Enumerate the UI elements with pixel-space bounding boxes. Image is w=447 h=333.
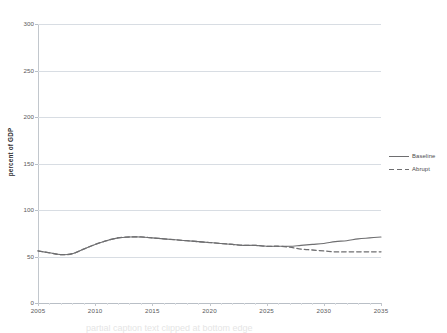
x-minor-tick-2011 — [107, 303, 108, 305]
x-tick-mark-2020 — [210, 303, 211, 306]
x-minor-tick-2018 — [187, 303, 188, 305]
y-axis-tick-group: 050100150200250300 — [0, 0, 34, 333]
x-minor-tick-2008 — [72, 303, 73, 305]
chart-figure: percent of GDP 050100150200250300 200520… — [0, 0, 447, 333]
y-tick-label-250: 250 — [23, 67, 34, 73]
y-tick-mark-0 — [35, 303, 38, 304]
x-minor-tick-2016 — [164, 303, 165, 305]
y-tick-label-200: 200 — [23, 114, 34, 120]
x-tick-mark-2030 — [324, 303, 325, 306]
y-tick-label-100: 100 — [23, 207, 34, 213]
y-tick-label-300: 300 — [23, 21, 34, 27]
y-tick-label-50: 50 — [27, 253, 34, 259]
legend-item-baseline[interactable]: Baseline — [389, 150, 447, 163]
caption-strip: partial caption text clipped at bottom e… — [0, 325, 447, 333]
x-tick-label-2005: 2005 — [31, 308, 46, 314]
x-minor-tick-2014 — [141, 303, 142, 305]
x-minor-tick-2024 — [255, 303, 256, 305]
x-tick-mark-2005 — [38, 303, 39, 306]
y-tick-mark-150 — [35, 164, 38, 165]
x-minor-tick-2033 — [358, 303, 359, 305]
x-tick-label-2010: 2010 — [88, 308, 103, 314]
y-tick-mark-200 — [35, 117, 38, 118]
caption-clipped-text: partial caption text clipped at bottom e… — [86, 325, 253, 333]
x-tick-label-2015: 2015 — [145, 308, 160, 314]
x-minor-tick-2019 — [198, 303, 199, 305]
gridline-y-50 — [38, 257, 381, 258]
gridline-y-150 — [38, 164, 381, 165]
x-minor-tick-2006 — [49, 303, 50, 305]
x-minor-tick-2027 — [290, 303, 291, 305]
gridline-y-300 — [38, 24, 381, 25]
x-minor-tick-2028 — [301, 303, 302, 305]
y-tick-mark-100 — [35, 210, 38, 211]
x-tick-mark-2010 — [95, 303, 96, 306]
x-minor-tick-2034 — [370, 303, 371, 305]
legend-item-abrupt[interactable]: Abrupt — [389, 163, 447, 176]
x-minor-tick-2026 — [278, 303, 279, 305]
chart-legend: BaselineAbrupt — [389, 150, 447, 176]
x-tick-label-2035: 2035 — [374, 308, 389, 314]
y-tick-mark-50 — [35, 257, 38, 258]
x-minor-tick-2007 — [61, 303, 62, 305]
x-tick-label-2025: 2025 — [259, 308, 274, 314]
series-line-abrupt — [38, 237, 381, 255]
x-minor-tick-2017 — [175, 303, 176, 305]
x-minor-tick-2022 — [232, 303, 233, 305]
y-tick-label-0: 0 — [30, 300, 34, 306]
y-tick-mark-250 — [35, 71, 38, 72]
x-minor-tick-2023 — [244, 303, 245, 305]
x-minor-tick-2021 — [221, 303, 222, 305]
y-tick-label-150: 150 — [23, 160, 34, 166]
legend-label-baseline: Baseline — [412, 154, 435, 160]
x-minor-tick-2032 — [347, 303, 348, 305]
x-tick-mark-2025 — [267, 303, 268, 306]
x-minor-tick-2009 — [84, 303, 85, 305]
legend-swatch-dashed-icon — [389, 167, 409, 173]
gridline-y-250 — [38, 71, 381, 72]
gridline-y-200 — [38, 117, 381, 118]
gridline-y-100 — [38, 210, 381, 211]
legend-swatch-solid-icon — [389, 154, 409, 160]
plot-area — [38, 24, 381, 303]
x-minor-tick-2013 — [129, 303, 130, 305]
x-tick-label-2030: 2030 — [317, 308, 332, 314]
x-tick-label-2020: 2020 — [202, 308, 217, 314]
x-minor-tick-2031 — [335, 303, 336, 305]
legend-label-abrupt: Abrupt — [412, 167, 430, 173]
y-tick-mark-300 — [35, 24, 38, 25]
x-minor-tick-2029 — [312, 303, 313, 305]
x-tick-mark-2035 — [381, 303, 382, 306]
x-minor-tick-2012 — [118, 303, 119, 305]
x-tick-mark-2015 — [152, 303, 153, 306]
